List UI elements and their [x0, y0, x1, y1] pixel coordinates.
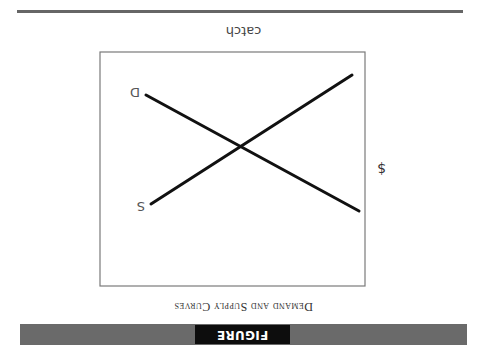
demand-supply-chart: D S [0, 0, 487, 358]
below-figure-text: catch [0, 24, 487, 39]
supply-label: S [137, 199, 145, 214]
supply-curve [151, 75, 352, 204]
demand-curve [146, 95, 359, 211]
figure-page: FIGURE 10.11 Demand and Supply Curves D … [0, 0, 487, 358]
y-axis-label: $ [377, 161, 386, 177]
bottom-rule [17, 10, 463, 13]
demand-label: D [130, 85, 140, 100]
